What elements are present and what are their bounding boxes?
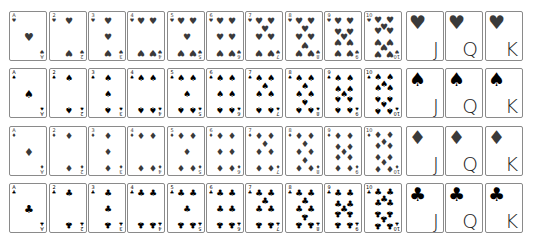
card-pips: ♦♦♦ bbox=[89, 127, 126, 176]
card-a-of-spades[interactable]: A♠A♠♠ bbox=[9, 68, 47, 118]
card-7-of-hearts[interactable]: 7♥7♥♥♥♥♥♥♥♥ bbox=[245, 11, 283, 61]
card-rank-label: Q bbox=[462, 154, 478, 174]
card-q-of-diamonds[interactable]: ♦Q bbox=[445, 126, 483, 176]
card-j-of-diamonds[interactable]: ♦J bbox=[406, 126, 444, 176]
diamonds-pip-icon: ♦ bbox=[104, 163, 112, 173]
spades-pip-icon: ♠ bbox=[24, 88, 34, 101]
card-pips: ♣♣♣♣ bbox=[128, 184, 165, 233]
card-k-of-clubs[interactable]: ♣K bbox=[485, 183, 523, 233]
spades-pip-icon: ♠ bbox=[334, 94, 342, 104]
card-j-of-spades[interactable]: ♠J bbox=[406, 68, 444, 118]
card-rank-label: J bbox=[433, 96, 439, 116]
hearts-pip-icon: ♥ bbox=[216, 32, 224, 42]
card-5-of-clubs[interactable]: 5♣5♣♣♣♣♣♣ bbox=[167, 183, 205, 233]
spades-pip-icon: ♠ bbox=[149, 73, 157, 83]
card-8-of-hearts[interactable]: 8♥8♥♥♥♥♥♥♥♥♥ bbox=[285, 11, 323, 61]
card-2-of-diamonds[interactable]: 2♦2♦♦♦ bbox=[49, 126, 87, 176]
card-q-of-spades[interactable]: ♠Q bbox=[445, 68, 483, 118]
card-a-of-hearts[interactable]: A♥A♥♥ bbox=[9, 11, 47, 61]
spades-suit-icon: ♠ bbox=[409, 70, 426, 89]
card-8-of-spades[interactable]: 8♠8♠♠♠♠♠♠♠♠♠ bbox=[285, 68, 323, 118]
diamonds-pip-icon: ♦ bbox=[137, 131, 145, 141]
diamonds-pip-icon: ♦ bbox=[228, 163, 236, 173]
card-pips: ♦ bbox=[10, 127, 47, 176]
card-10-of-diamonds[interactable]: 10♦10♦♦♦♦♦♦♦♦♦♦♦ bbox=[364, 126, 402, 176]
hearts-pip-icon: ♥ bbox=[386, 26, 394, 36]
card-3-of-diamonds[interactable]: 3♦3♦♦♦♦ bbox=[88, 126, 126, 176]
clubs-pip-icon: ♣ bbox=[386, 221, 394, 231]
card-9-of-diamonds[interactable]: 9♦9♦♦♦♦♦♦♦♦♦♦ bbox=[324, 126, 362, 176]
diamonds-pip-icon: ♦ bbox=[346, 142, 354, 152]
clubs-pip-icon: ♣ bbox=[267, 204, 275, 214]
card-4-of-clubs[interactable]: 4♣4♣♣♣♣♣ bbox=[127, 183, 165, 233]
card-4-of-diamonds[interactable]: 4♦4♦♦♦♦♦ bbox=[127, 126, 165, 176]
card-9-of-hearts[interactable]: 9♥9♥♥♥♥♥♥♥♥♥♥ bbox=[324, 11, 362, 61]
clubs-suit-icon: ♣ bbox=[448, 185, 465, 204]
card-3-of-spades[interactable]: 3♠3♠♠♠♠ bbox=[88, 68, 126, 118]
card-k-of-diamonds[interactable]: ♦K bbox=[485, 126, 523, 176]
hearts-pip-icon: ♥ bbox=[104, 32, 112, 42]
hearts-pip-icon: ♥ bbox=[346, 37, 354, 47]
diamonds-suit-icon: ♦ bbox=[488, 128, 505, 147]
card-3-of-hearts[interactable]: 3♥3♥♥♥♥ bbox=[88, 11, 126, 61]
spades-pip-icon: ♠ bbox=[295, 105, 303, 115]
spades-suit-icon: ♠ bbox=[448, 70, 465, 89]
card-k-of-spades[interactable]: ♠K bbox=[485, 68, 523, 118]
card-2-of-hearts[interactable]: 2♥2♥♥♥ bbox=[49, 11, 87, 61]
hearts-pip-icon: ♥ bbox=[149, 16, 157, 26]
spades-pip-icon: ♠ bbox=[346, 84, 354, 94]
card-j-of-clubs[interactable]: ♣J bbox=[406, 183, 444, 233]
spades-pip-icon: ♠ bbox=[104, 89, 112, 99]
card-k-of-hearts[interactable]: ♥K bbox=[485, 11, 523, 61]
clubs-pip-icon: ♣ bbox=[216, 220, 224, 230]
card-7-of-spades[interactable]: 7♠7♠♠♠♠♠♠♠♠ bbox=[245, 68, 283, 118]
diamonds-pip-icon: ♦ bbox=[104, 147, 112, 157]
card-pips: ♠♠♠♠♠♠♠♠ bbox=[286, 69, 323, 118]
card-pips: ♣♣ bbox=[50, 184, 87, 233]
card-5-of-hearts[interactable]: 5♥5♥♥♥♥♥♥ bbox=[167, 11, 205, 61]
card-3-of-clubs[interactable]: 3♣3♣♣♣♣ bbox=[88, 183, 126, 233]
card-4-of-spades[interactable]: 4♠4♠♠♠♠♠ bbox=[127, 68, 165, 118]
card-9-of-spades[interactable]: 9♠9♠♠♠♠♠♠♠♠♠♠ bbox=[324, 68, 362, 118]
clubs-pip-icon: ♣ bbox=[334, 209, 342, 219]
card-2-of-spades[interactable]: 2♠2♠♠♠ bbox=[49, 68, 87, 118]
diamonds-pip-icon: ♦ bbox=[255, 147, 263, 157]
card-6-of-spades[interactable]: 6♠6♠♠♠♠♠♠♠ bbox=[206, 68, 244, 118]
card-6-of-hearts[interactable]: 6♥6♥♥♥♥♥♥♥ bbox=[206, 11, 244, 61]
diamonds-pip-icon: ♦ bbox=[216, 163, 224, 173]
card-6-of-clubs[interactable]: 6♣6♣♣♣♣♣♣♣ bbox=[206, 183, 244, 233]
card-pips: ♣♣♣♣♣♣ bbox=[207, 184, 244, 233]
card-rank-label: K bbox=[505, 211, 518, 231]
card-j-of-hearts[interactable]: ♥J bbox=[406, 11, 444, 61]
card-a-of-diamonds[interactable]: A♦A♦♦ bbox=[9, 126, 47, 176]
card-a-of-clubs[interactable]: A♣A♣♣ bbox=[9, 183, 47, 233]
card-9-of-clubs[interactable]: 9♣9♣♣♣♣♣♣♣♣♣♣ bbox=[324, 183, 362, 233]
card-2-of-clubs[interactable]: 2♣2♣♣♣ bbox=[49, 183, 87, 233]
hearts-pip-icon: ♥ bbox=[216, 16, 224, 26]
card-7-of-clubs[interactable]: 7♣7♣♣♣♣♣♣♣♣ bbox=[245, 183, 283, 233]
diamonds-pip-icon: ♦ bbox=[149, 163, 157, 173]
hearts-pip-icon: ♥ bbox=[228, 32, 236, 42]
card-8-of-diamonds[interactable]: 8♦8♦♦♦♦♦♦♦♦♦ bbox=[285, 126, 323, 176]
card-5-of-diamonds[interactable]: 5♦5♦♦♦♦♦♦ bbox=[167, 126, 205, 176]
clubs-suit-icon: ♣ bbox=[409, 185, 426, 204]
hearts-pip-icon: ♥ bbox=[183, 32, 191, 42]
card-5-of-spades[interactable]: 5♠5♠♠♠♠♠♠ bbox=[167, 68, 205, 118]
spades-suit-icon: ♠ bbox=[488, 70, 505, 89]
diamonds-pip-icon: ♦ bbox=[374, 164, 382, 174]
card-10-of-hearts[interactable]: 10♥10♥♥♥♥♥♥♥♥♥♥♥ bbox=[364, 11, 402, 61]
hearts-pip-icon: ♥ bbox=[137, 48, 145, 58]
card-pips: ♠♠♠♠♠♠ bbox=[207, 69, 244, 118]
clubs-pip-icon: ♣ bbox=[65, 220, 73, 230]
card-10-of-clubs[interactable]: 10♣10♣♣♣♣♣♣♣♣♣♣♣ bbox=[364, 183, 402, 233]
card-7-of-diamonds[interactable]: 7♦7♦♦♦♦♦♦♦♦ bbox=[245, 126, 283, 176]
card-q-of-clubs[interactable]: ♣Q bbox=[445, 183, 483, 233]
card-10-of-spades[interactable]: 10♠10♠♠♠♠♠♠♠♠♠♠♠ bbox=[364, 68, 402, 118]
card-q-of-hearts[interactable]: ♥Q bbox=[445, 11, 483, 61]
card-6-of-diamonds[interactable]: 6♦6♦♦♦♦♦♦♦ bbox=[206, 126, 244, 176]
card-pips: ♠♠♠♠♠♠♠♠♠♠ bbox=[365, 69, 402, 118]
card-8-of-clubs[interactable]: 8♣8♣♣♣♣♣♣♣♣♣ bbox=[285, 183, 323, 233]
card-pips: ♣♣♣ bbox=[89, 184, 126, 233]
card-4-of-hearts[interactable]: 4♥4♥♥♥♥♥ bbox=[127, 11, 165, 61]
diamonds-pip-icon: ♦ bbox=[295, 163, 303, 173]
